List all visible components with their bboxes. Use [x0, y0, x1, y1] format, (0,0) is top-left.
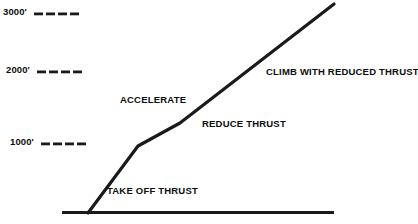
- altitude-tick-1000-dashes: [41, 143, 86, 146]
- altitude-tick-3000-dashes: [34, 13, 79, 16]
- altitude-tick-2000-dashes: [37, 71, 82, 74]
- altitude-label-2000: 2000': [6, 64, 30, 75]
- climb-profile-figure: 3000' 2000' 1000' TAKE OFF THRUST ACCELE…: [0, 0, 418, 224]
- phase-label-reduce-thrust: REDUCE THRUST: [202, 118, 286, 129]
- phase-label-take-off-thrust: TAKE OFF THRUST: [107, 185, 198, 196]
- climb-profile-line: [88, 4, 334, 213]
- altitude-label-3000: 3000': [3, 6, 27, 17]
- phase-label-climb-with-reduced-thrust: CLIMB WITH REDUCED THRUST: [266, 66, 418, 77]
- profile-diagram-svg: [0, 0, 418, 224]
- altitude-label-1000: 1000': [10, 136, 34, 147]
- phase-label-accelerate: ACCELERATE: [120, 94, 186, 105]
